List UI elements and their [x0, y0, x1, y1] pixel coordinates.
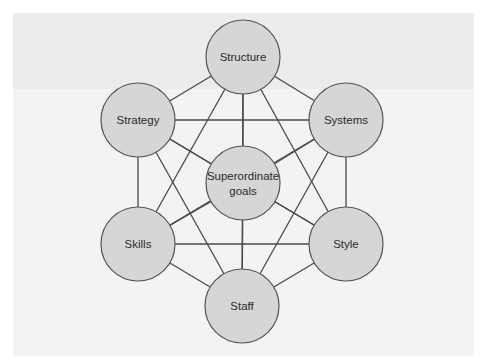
diagram-nodes: Structure Strategy Systems Superordinate…	[101, 20, 383, 343]
node-label-line2: goals	[229, 185, 257, 197]
node-staff: Staff	[205, 269, 279, 343]
node-style: Style	[309, 207, 383, 281]
node-circle	[206, 146, 280, 220]
seven-s-diagram: Structure Strategy Systems Superordinate…	[0, 0, 489, 361]
node-structure: Structure	[206, 20, 280, 94]
node-label: Strategy	[117, 114, 160, 126]
node-label: Systems	[324, 114, 368, 126]
node-strategy: Strategy	[101, 83, 175, 157]
node-systems: Systems	[309, 83, 383, 157]
node-label: Skills	[125, 238, 152, 250]
node-superordinate-goals: Superordinate goals	[206, 146, 280, 220]
node-label: Superordinate	[207, 170, 279, 182]
node-label: Style	[333, 238, 359, 250]
node-label: Staff	[230, 300, 254, 312]
node-label: Structure	[220, 51, 267, 63]
node-skills: Skills	[101, 207, 175, 281]
